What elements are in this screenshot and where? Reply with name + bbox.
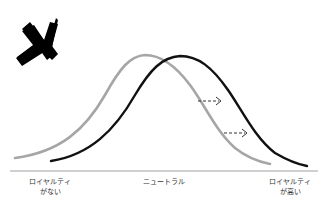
curve-before: [15, 55, 270, 164]
axis-label-no-loyalty: ロイヤルティ がない: [20, 177, 80, 197]
x-mark-icon: [16, 18, 58, 66]
axis-label-neutral: ニュートラル: [128, 177, 200, 187]
axis-label-no-loyalty-line1: ロイヤルティ: [20, 177, 80, 187]
dashed-arrow-right-icon: [224, 129, 247, 137]
axis-label-high-loyalty-line1: ロイヤルティ: [258, 177, 322, 187]
axis-label-no-loyalty-line2: がない: [20, 187, 80, 197]
axis-label-high-loyalty-line2: が高い: [258, 187, 322, 197]
axis-label-high-loyalty: ロイヤルティ が高い: [258, 177, 322, 197]
